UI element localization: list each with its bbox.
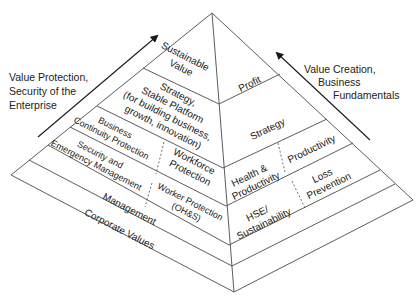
- left-annotation: Value Protection, Security of the Enterp…: [9, 71, 91, 111]
- tier-productivity: Productivity: [286, 133, 337, 166]
- svg-text:Worker Protection (OH&S): Worker Protection (OH&S): [151, 181, 227, 233]
- tier-workforce-protection: Workforce Protection: [166, 146, 219, 188]
- svg-text:HSE/ Sustainability: HSE/ Sustainability: [230, 195, 293, 242]
- tier-health-productivity: Health & Productivity: [225, 159, 282, 202]
- svg-text:Strategy: Strategy: [248, 116, 286, 142]
- tier-security-emergency: Security and Emergency Management: [49, 128, 149, 193]
- pyramid-diagram: Value Protection, Security of the Enterp…: [0, 0, 419, 299]
- svg-text:Workforce Protection: Workforce Protection: [166, 146, 219, 188]
- svg-text:Productivity: Productivity: [286, 133, 337, 166]
- tier-sustainable-value: Sustainable Value: [154, 39, 213, 84]
- svg-text:Strategy, Stable Platfor: Strategy, Stable Platform (for building …: [116, 67, 226, 154]
- svg-text:Sustainable Value: Sustainable Value: [154, 39, 213, 84]
- tier-hse-sustainability: HSE/ Sustainability: [230, 195, 293, 242]
- svg-text:Security and Emergency M: Security and Emergency Management: [49, 128, 149, 193]
- svg-text:Health & Productivity: Health & Productivity: [225, 159, 282, 202]
- tier-profit: Profit: [237, 74, 263, 94]
- tier-strategy-platform: Strategy, Stable Platform (for building …: [116, 67, 226, 154]
- right-annotation: Value Creation, Business Fundamentals: [304, 63, 400, 101]
- svg-text:Profit: Profit: [237, 74, 263, 94]
- tier-worker-protection: Worker Protection (OH&S): [151, 181, 227, 233]
- tier-strategy: Strategy: [248, 116, 286, 142]
